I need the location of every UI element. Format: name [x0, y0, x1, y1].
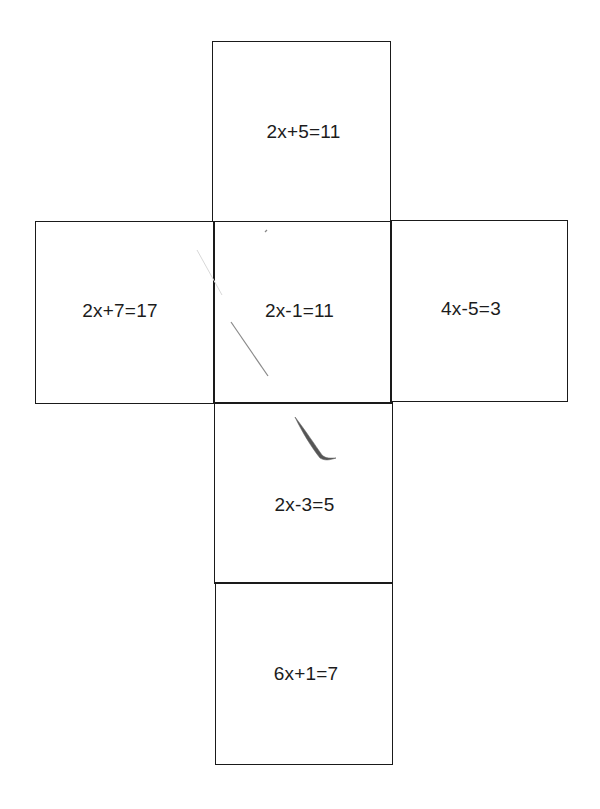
- equation-label: 2x-3=5: [275, 494, 335, 516]
- equation-label: 2x+7=17: [82, 300, 157, 322]
- cube-face-bottom: 6x+1=7: [215, 582, 393, 765]
- equation-label: 4x-5=3: [441, 298, 501, 320]
- cube-net-diagram: 2x+5=11 2x+7=17 2x-1=11 4x-5=3 2x-3=5 6x…: [0, 0, 600, 809]
- cube-face-below-center: 2x-3=5: [214, 402, 393, 584]
- cube-face-left: 2x+7=17: [35, 221, 215, 404]
- equation-label: 2x-1=11: [265, 300, 334, 322]
- equation-label: 2x+5=11: [267, 121, 341, 143]
- cube-face-right: 4x-5=3: [390, 220, 568, 402]
- equation-label: 6x+1=7: [274, 663, 339, 685]
- cube-face-top: 2x+5=11: [212, 41, 391, 222]
- cube-face-center: 2x-1=11: [213, 221, 392, 404]
